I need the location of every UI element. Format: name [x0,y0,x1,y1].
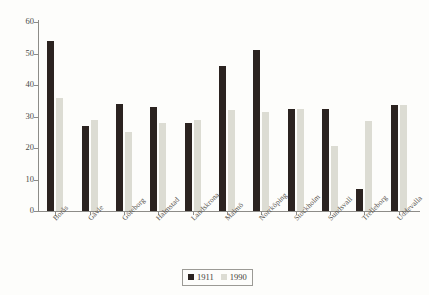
bar-group [356,22,372,211]
bar [356,189,363,211]
bar [185,123,192,211]
bar-chart: 0102030405060 BoråsGävleGöteborgHalmstad… [0,0,429,295]
bar [400,105,407,211]
bar [82,126,89,211]
bar [297,109,304,211]
bar-group [116,22,132,211]
y-axis-tick-mark [34,85,38,86]
bar [322,109,329,211]
bar [219,66,226,211]
legend-entry: 1911 [188,273,214,282]
bar [288,109,295,211]
y-axis-tick-label: 10 [26,174,35,185]
y-axis-tick-mark [34,22,38,23]
legend-swatch-icon [188,274,194,280]
bar [331,146,338,211]
bar [91,120,98,211]
bar [194,120,201,211]
y-axis-tick-label: 0 [30,205,34,216]
bar-group [288,22,304,211]
legend-label: 1990 [230,273,247,282]
bar [47,41,54,211]
y-axis-tick-mark [34,180,38,181]
plot-area: 0102030405060 [38,22,416,211]
bar [56,98,63,211]
bar [116,104,123,211]
y-axis-tick-label: 40 [26,79,35,90]
bar [253,50,260,211]
y-axis-tick-label: 30 [26,111,35,122]
legend-entry: 1990 [221,273,247,282]
y-axis-tick-mark [34,211,38,212]
bar-group [47,22,63,211]
bar-group [219,22,235,211]
y-axis-tick-label: 50 [26,48,35,59]
bar [228,110,235,211]
bar-group [150,22,166,211]
bar [365,121,372,211]
y-axis-tick-mark [34,117,38,118]
bar-group [82,22,98,211]
bar-group [322,22,338,211]
legend-swatch-icon [221,274,227,280]
chart-legend: 19111990 [182,269,253,286]
y-axis-tick-mark [34,148,38,149]
bar-group [253,22,269,211]
bar [159,123,166,211]
y-axis-tick-label: 60 [26,16,35,27]
y-axis-tick-mark [34,54,38,55]
y-axis-tick-label: 20 [26,142,35,153]
bar [391,105,398,211]
bar [262,112,269,211]
legend-label: 1911 [197,273,214,282]
bar-group [391,22,407,211]
bar [150,107,157,211]
bar [125,132,132,211]
bar-group [185,22,201,211]
